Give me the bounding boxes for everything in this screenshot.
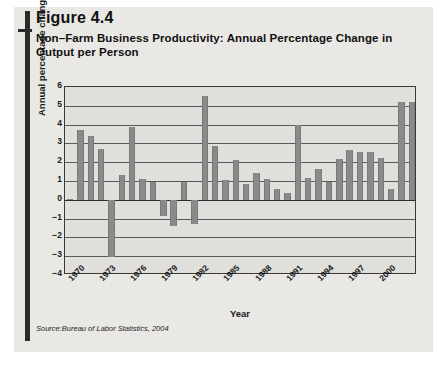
y-tick-label: 5 [40,99,62,109]
y-tick-label: −1 [40,212,62,222]
bar [305,178,311,200]
y-tick-label: 1 [40,174,62,184]
bar [233,160,239,199]
gridline [65,237,415,238]
figure-title: Non–Farm Business Productivity: Annual P… [36,31,426,59]
bar [336,159,342,199]
bar [160,200,166,216]
bar [243,184,249,200]
bar [98,149,104,200]
gridline [65,106,415,107]
bar [284,193,290,200]
bar [264,179,270,200]
y-tick-label: −4 [40,268,62,278]
bar [274,189,280,199]
y-tick-label: 6 [40,80,62,90]
source-note: Source:Bureau of Labor Statistics, 2004 [36,324,169,333]
bar [388,189,394,200]
y-tick-label: 3 [40,136,62,146]
top-accent-rule [18,29,32,32]
bar [181,182,187,200]
bar [129,127,135,199]
bar [119,175,125,199]
plot-region [64,86,416,274]
gridline [65,219,415,220]
y-tick-label: 4 [40,118,62,128]
chart-area: Annual percentage change 6543210−1−2−3−4… [36,86,428,316]
bar [67,199,73,201]
y-axis-ticks: 6543210−1−2−3−4 [36,86,62,274]
figure-number: Figure 4.4 [36,9,114,27]
bar [77,130,83,200]
bar [222,180,228,200]
bar [202,96,208,199]
x-axis-ticks: 1970197319761979198219851988199119941997… [64,276,416,306]
gridline [65,125,415,126]
gridline [65,256,415,257]
bar [295,125,301,200]
figure-container: Figure 4.4 Non–Farm Business Productivit… [0,0,445,366]
bar [409,102,415,200]
gridline [65,143,415,144]
bar [357,152,363,200]
bar [139,179,145,200]
zero-line [65,200,415,201]
bar [253,173,259,200]
bar [88,136,94,200]
x-axis-label: Year [64,308,416,319]
bar [108,200,114,257]
bar [346,150,352,200]
bar [315,169,321,200]
left-accent-rule [25,11,30,341]
bar [150,182,156,200]
y-tick-label: 2 [40,155,62,165]
bar [326,182,332,200]
bar [212,146,218,200]
bar [398,102,404,200]
bar [191,200,197,224]
bar [378,158,384,200]
y-tick-label: −3 [40,249,62,259]
y-tick-label: 0 [40,193,62,203]
bar [170,200,176,226]
bar [367,152,373,200]
y-tick-label: −2 [40,230,62,240]
